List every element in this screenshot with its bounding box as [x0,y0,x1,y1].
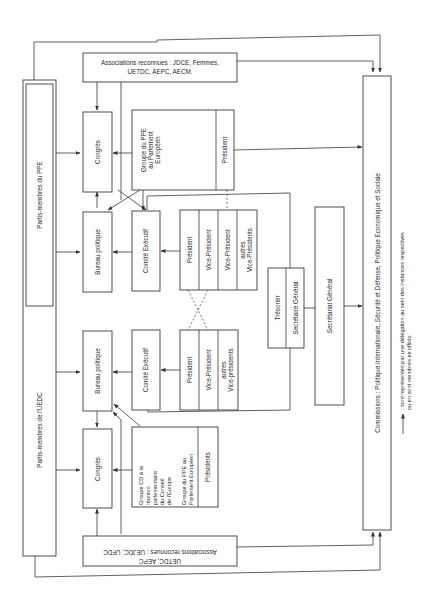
ppe-members-label: Partis-membres du PPE [36,161,43,229]
legend-line2: ou en sont membres ex officio [406,335,412,410]
legend-line1: : sont représentés par une délégation au… [399,232,405,410]
ppe-officer-vp1: Vice-Président [205,229,212,270]
ppe-comite-box: Comité Exécutif [132,211,160,291]
ppe-congres-label: Congrès [94,140,102,164]
tresorier-secretaire-box: Trésorier Secrétaire Général [268,268,304,348]
members-column: Partis-membres du PPE Partis-membres de … [23,80,56,556]
arrow-assoc-bureau-uedc [113,412,121,534]
ppe-congres-box: Congrès [83,112,112,192]
ppe-officer-others-2: Vice-Présidents [246,228,253,272]
arrow-president-commissions [234,147,362,150]
uedc-associations-box: Associations reconnues : UEJDC, UFDC UET… [83,536,237,566]
ppe-assoc-to-commissions-line [237,61,373,72]
uedc-comite-label: Comité Exécutif [142,348,149,392]
org-chart-diagram: Partis-membres du PPE Partis-membres de … [0,0,429,603]
tresorier-label: Trésorier [274,296,281,321]
uedc-members-label: Partis-membres de l'UEDC [36,392,43,468]
dotted-cross-1 [188,290,208,330]
ppe-associations-box: Associations reconnues : JDCE, Femmes, U… [83,53,237,82]
uedc-bureau-box: Bureau politique [83,331,112,411]
ppe-comite-label: Comité Exécutif [142,229,149,273]
uedc-groupe-cd-line1: Groupe CD à la [138,465,144,505]
ppe-officer-others-1: autres [239,241,246,259]
ppe-associations-line2: UETDC, AEPC, AECM. [127,68,192,75]
uedc-groupe-cd-line4: du Conseil [159,479,165,505]
ppe-bureau-label: Bureau politique [94,229,102,275]
uedc-bureau-label: Bureau politique [94,348,102,394]
uedc-assoc-to-commissions-line [237,532,373,547]
ppe-officers-box: Président Vice-Président Vice-Président … [180,210,257,290]
secretariat-general-label: Secrétariat Général [326,279,333,334]
uedc-groupe-presidents-label: Présidents [204,452,211,482]
uedc-officers-box: Président Vice-Président autres Vice-pré… [180,330,238,410]
uedc-groupe-box: Groupe CD à la réunion parlementaire du … [132,427,218,507]
ppe-groupe-pe-line2: au Parlement [147,131,154,169]
commissions-box: Commissions : Politique Internationale, … [363,76,391,530]
ppe-groupe-president-label: Président [221,136,228,163]
ppe-associations-line1: Associations reconnues : JDCE, Femmes, [101,59,219,66]
uedc-groupe-cd-line3: parlementaire [152,471,158,505]
uedc-officer-others-2: Vice-présidents [227,348,235,391]
dotted-cross-2 [188,290,208,330]
uedc-comite-box: Comité Exécutif [132,330,160,410]
uedc-groupe-pe-line1: Groupe du PPE au [181,458,187,505]
uedc-groupe-cd-line5: de l'Europe [166,477,172,505]
arrow-groupe-bureau-ppe [108,190,140,210]
uedc-officer-president: Président [186,356,193,383]
uedc-officer-others-1: autres [220,361,227,379]
arrow-assoc-comite-ppe [118,190,146,210]
uedc-associations-line2: UETDC, AEPC [139,558,181,565]
uedc-congres-label: Congrès [94,457,102,481]
ppe-groupe-pe-line3: Européen [154,136,162,164]
ppe-officer-president: Président [186,236,193,263]
secretariat-general-box: Secrétariat Général [315,207,344,405]
uedc-groupe-cd-line2: réunion [145,486,151,505]
uedc-officer-vp: Vice-Président [205,349,212,390]
secretaire-general-label: Secrétaire Général [292,282,299,335]
ppe-officer-vp2: Vice-Président [224,229,231,270]
ppe-groupe-pe-box: Groupe du PPE au Parlement Européen Prés… [132,110,234,190]
uedc-associations-line1: Associations reconnues : UEJDC, UFDC [103,549,217,556]
ppe-bureau-box: Bureau politique [83,212,112,292]
uedc-groupe-pe-line2: Parlement Européen [188,454,194,505]
commissions-label: Commissions : Politique Internationale, … [374,173,382,433]
uedc-congres-box: Congrès [83,429,112,508]
legend: : sont représentés par une délégation au… [399,232,412,434]
